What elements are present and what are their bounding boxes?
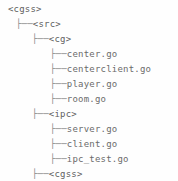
tree-node-center-go[interactable]: center.go [67, 49, 118, 59]
tree-row[interactable]: <cgss> [0, 2, 178, 17]
tree-node-ipc-test-go[interactable]: ipc_test.go [67, 154, 129, 164]
tree-row[interactable]: ├──<src> [0, 17, 178, 32]
tree-node-cgss-dir[interactable]: <cgss> [49, 169, 83, 179]
tree-row[interactable]: ├──player.go [0, 77, 178, 92]
tree-node-player-go[interactable]: player.go [67, 79, 118, 89]
tree-row[interactable]: ├──<ipc> [0, 107, 178, 122]
tree-branch-icon: ├── [50, 124, 67, 134]
tree-branch-icon: ├── [32, 169, 49, 179]
tree-branch-icon: ├── [50, 154, 67, 164]
tree-row[interactable]: ├──centerclient.go [0, 62, 178, 77]
tree-row[interactable]: ├──room.go [0, 92, 178, 107]
tree-row[interactable]: ├──<cgss> [0, 167, 178, 181]
tree-branch-icon: ├── [50, 49, 67, 59]
tree-branch-icon: ├── [32, 109, 49, 119]
tree-row[interactable]: ├──client.go [0, 137, 178, 152]
tree-node-cg[interactable]: <cg> [49, 34, 71, 44]
tree-branch-icon: ├── [50, 79, 67, 89]
tree-branch-icon: ├── [50, 139, 67, 149]
tree-node-server-go[interactable]: server.go [67, 124, 118, 134]
tree-row[interactable]: ├──<cg> [0, 32, 178, 47]
tree-row[interactable]: ├──center.go [0, 47, 178, 62]
tree-branch-icon: ├── [50, 64, 67, 74]
tree-node-ipc[interactable]: <ipc> [49, 109, 77, 119]
tree-branch-icon: ├── [32, 34, 49, 44]
tree-node-centerclient-go[interactable]: centerclient.go [67, 64, 151, 74]
tree-node-src[interactable]: <src> [33, 19, 61, 29]
tree-node-client-go[interactable]: client.go [67, 139, 118, 149]
tree-node-room-go[interactable]: room.go [67, 94, 106, 104]
tree-row[interactable]: ├──ipc_test.go [0, 152, 178, 167]
tree-row[interactable]: ├──server.go [0, 122, 178, 137]
directory-tree: <cgss>├──<src>├──<cg>├──center.go├──cent… [0, 0, 178, 181]
tree-node-cgss-root[interactable]: <cgss> [8, 4, 42, 14]
tree-branch-icon: ├── [16, 19, 33, 29]
tree-branch-icon: ├── [50, 94, 67, 104]
